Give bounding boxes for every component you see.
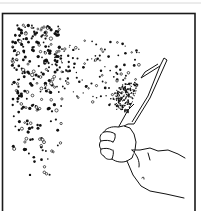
hand-icon [100, 126, 186, 198]
frame-border [3, 14, 196, 212]
scatter-illustration [0, 0, 201, 211]
